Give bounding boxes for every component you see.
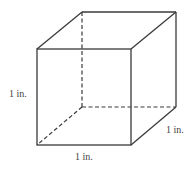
- front-face: [37, 49, 131, 145]
- edge-top-right-diagonal: [131, 12, 176, 49]
- hidden-edge-bottom-left-diagonal: [37, 107, 82, 145]
- edge-top-left-diagonal: [37, 12, 82, 49]
- cube-diagram: [0, 0, 190, 172]
- width-label: 1 in.: [75, 152, 93, 162]
- depth-label: 1 in.: [166, 125, 184, 135]
- height-label: 1 in.: [9, 89, 27, 99]
